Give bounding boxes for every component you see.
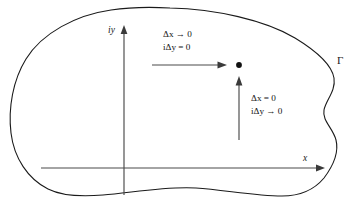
vertical-axis-arrowhead	[121, 25, 128, 34]
vertical-limit-line2: iΔy → 0	[251, 105, 282, 118]
vertical-axis-label: iy	[108, 25, 115, 36]
vertical-limit-annotation: Δx = 0 iΔy → 0	[251, 92, 282, 119]
complex-plane-region-figure: iy x Γ Δx → 0 iΔy = 0 Δx = 0 iΔy → 0	[0, 0, 362, 213]
horizontal-limit-line2: iΔy = 0	[163, 41, 192, 54]
vertical-limit-arrowhead	[236, 76, 243, 86]
limit-point-dot	[236, 62, 242, 68]
horizontal-axis-arrowhead	[316, 165, 325, 172]
horizontal-limit-annotation: Δx → 0 iΔy = 0	[163, 28, 192, 55]
horizontal-limit-line1: Δx → 0	[163, 28, 192, 41]
vertical-limit-line1: Δx = 0	[251, 92, 282, 105]
horizontal-axis-label: x	[303, 153, 307, 164]
horizontal-limit-arrowhead	[218, 61, 228, 68]
boundary-label-gamma: Γ	[337, 54, 343, 67]
